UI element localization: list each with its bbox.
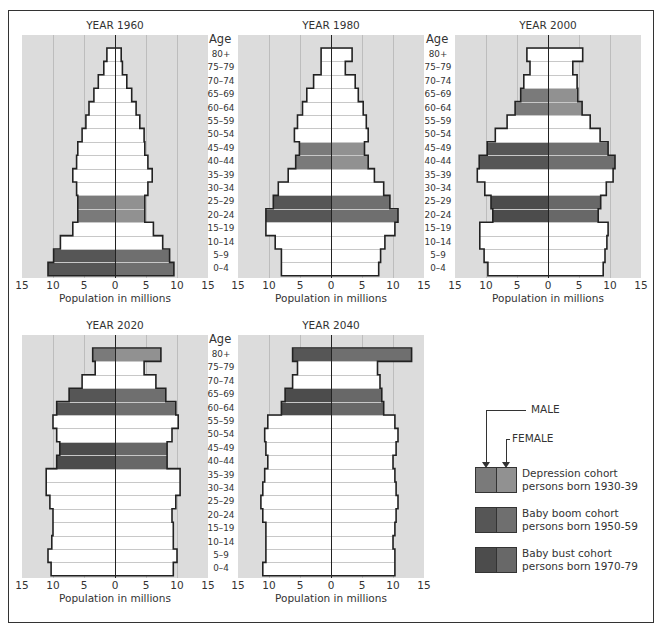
age-group-label: 0–4 — [204, 563, 238, 573]
male-arrow-line — [486, 410, 526, 411]
x-tick-label: 10 — [259, 579, 279, 591]
age-group-label: 45–49 — [204, 143, 238, 153]
age-group-label: 65–69 — [204, 389, 238, 399]
age-axis-title: Age — [426, 32, 448, 46]
x-tick-label: 15 — [12, 279, 32, 291]
age-group-label: 25–29 — [204, 496, 238, 506]
x-tick-label: 10 — [383, 279, 403, 291]
age-group-label: 20–24 — [204, 510, 238, 520]
age-group-label: 15–19 — [421, 223, 455, 233]
zero-axis-line — [115, 35, 116, 278]
legend-bust-line2: persons born 1970-79 — [522, 560, 638, 573]
age-group-label: 45–49 — [204, 443, 238, 453]
x-tick-label: 5 — [136, 279, 156, 291]
age-group-label: 40–44 — [204, 156, 238, 166]
x-tick-label: 5 — [136, 579, 156, 591]
x-axis-label: Population in millions — [22, 292, 208, 304]
age-group-label: 65–69 — [421, 89, 455, 99]
x-tick-label: 10 — [600, 279, 620, 291]
x-tick-label: 10 — [43, 579, 63, 591]
age-group-label: 80+ — [204, 349, 238, 359]
male-arrow-stem — [486, 410, 487, 464]
age-group-label: 50–54 — [204, 429, 238, 439]
age-axis-title: Age — [209, 332, 231, 346]
age-group-label: 35–39 — [204, 470, 238, 480]
age-group-label: 50–54 — [421, 129, 455, 139]
pyramid-panel — [238, 35, 424, 278]
x-axis-label: Population in millions — [455, 292, 641, 304]
zero-axis-line — [331, 35, 332, 278]
age-group-label: 70–74 — [421, 76, 455, 86]
legend-swatch-boom — [475, 507, 517, 533]
age-group-label: 70–74 — [204, 376, 238, 386]
age-group-label: 0–4 — [204, 263, 238, 273]
x-tick-label: 15 — [414, 279, 434, 291]
age-group-label: 55–59 — [421, 116, 455, 126]
age-group-label: 35–39 — [421, 170, 455, 180]
x-axis-label: Population in millions — [22, 592, 208, 604]
age-group-label: 80+ — [204, 49, 238, 59]
age-group-label: 10–14 — [204, 237, 238, 247]
panel-title: YEAR 1960 — [22, 19, 208, 31]
age-group-label: 5–9 — [421, 250, 455, 260]
x-tick-label: 15 — [631, 279, 651, 291]
age-group-label: 40–44 — [204, 456, 238, 466]
legend-depression-line1: Depression cohort — [522, 467, 638, 480]
age-group-label: 60–64 — [204, 103, 238, 113]
x-tick-label: 5 — [290, 279, 310, 291]
x-tick-label: 15 — [228, 579, 248, 591]
x-axis-label: Population in millions — [238, 592, 424, 604]
age-group-label: 60–64 — [204, 403, 238, 413]
x-tick-label: 10 — [167, 279, 187, 291]
x-tick-label: 0 — [105, 579, 125, 591]
x-tick-label: 5 — [352, 279, 372, 291]
age-group-label: 20–24 — [421, 210, 455, 220]
age-group-label: 30–34 — [204, 483, 238, 493]
age-group-label: 5–9 — [204, 550, 238, 560]
pyramid-panel — [22, 35, 208, 278]
x-tick-label: 5 — [74, 279, 94, 291]
legend-swatch-depression — [475, 467, 517, 493]
age-group-label: 75–79 — [204, 62, 238, 72]
age-group-label: 75–79 — [421, 62, 455, 72]
legend-female-label: FEMALE — [512, 432, 553, 444]
panel-title: YEAR 1980 — [238, 19, 424, 31]
zero-axis-line — [115, 335, 116, 578]
x-tick-label: 10 — [43, 279, 63, 291]
x-tick-label: 15 — [198, 579, 218, 591]
x-tick-label: 0 — [105, 279, 125, 291]
age-group-label: 30–34 — [204, 183, 238, 193]
age-group-label: 45–49 — [421, 143, 455, 153]
x-tick-label: 0 — [321, 579, 341, 591]
age-group-label: 40–44 — [421, 156, 455, 166]
x-tick-label: 15 — [445, 279, 465, 291]
panel-title: YEAR 2040 — [238, 319, 424, 331]
zero-axis-line — [331, 335, 332, 578]
x-tick-label: 5 — [74, 579, 94, 591]
age-group-label: 50–54 — [204, 129, 238, 139]
x-tick-label: 5 — [569, 279, 589, 291]
pyramid-panel — [22, 335, 208, 578]
x-tick-label: 5 — [352, 579, 372, 591]
age-group-label: 25–29 — [421, 196, 455, 206]
age-group-label: 15–19 — [204, 523, 238, 533]
x-tick-label: 0 — [321, 279, 341, 291]
x-tick-label: 15 — [414, 579, 434, 591]
x-axis-label: Population in millions — [238, 292, 424, 304]
age-group-label: 70–74 — [204, 76, 238, 86]
x-tick-label: 5 — [290, 579, 310, 591]
legend-boom-line1: Baby boom cohort — [522, 507, 638, 520]
x-tick-label: 5 — [507, 279, 527, 291]
panel-title: YEAR 2020 — [22, 319, 208, 331]
zero-axis-line — [548, 35, 549, 278]
age-group-label: 55–59 — [204, 416, 238, 426]
x-tick-label: 10 — [259, 279, 279, 291]
legend-text-bust: Baby bust cohort persons born 1970-79 — [522, 547, 638, 573]
age-group-label: 75–79 — [204, 362, 238, 372]
age-axis-title: Age — [209, 32, 231, 46]
age-group-label: 60–64 — [421, 103, 455, 113]
age-group-label: 15–19 — [204, 223, 238, 233]
legend-text-depression: Depression cohort persons born 1930-39 — [522, 467, 638, 493]
age-group-label: 35–39 — [204, 170, 238, 180]
legend-depression-line2: persons born 1930-39 — [522, 480, 638, 493]
